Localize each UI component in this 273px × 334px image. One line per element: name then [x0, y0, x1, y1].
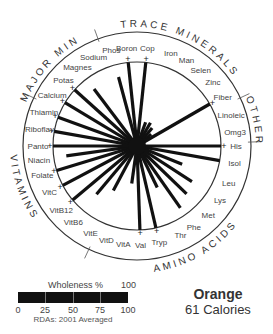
rda-marker: +	[221, 141, 226, 151]
legend-note: RDAs: 2001 Averaged	[18, 315, 128, 324]
legend-tick: 75	[95, 305, 105, 315]
nutrient-label: Phos	[102, 46, 120, 55]
nutrient-label: Folate	[31, 171, 54, 180]
food-name: Orange	[168, 286, 268, 302]
legend-segment	[101, 292, 128, 303]
food-calories: 61 Calories	[168, 302, 268, 318]
nutrient-label: Lys	[214, 196, 226, 205]
nutrient-label: VitA	[116, 240, 131, 249]
chart-bars	[53, 62, 221, 229]
nutrient-label: Thiamin	[30, 108, 58, 117]
nutrient-label: Riboflav	[25, 125, 54, 134]
group-label: TRACE MINERALS	[120, 18, 242, 79]
nutrient-label: Zinc	[205, 78, 220, 87]
legend-max-label: 100	[121, 280, 136, 290]
legend-title: Wholeness %	[48, 280, 103, 290]
legend-segment	[46, 292, 74, 303]
nutrient-label: Magnes	[63, 63, 91, 72]
nutrient-label: VitE	[83, 229, 98, 238]
legend-bar	[18, 292, 128, 303]
rda-marker: +	[143, 54, 148, 64]
legend-ticks: 0 25 50 75 100	[18, 305, 136, 315]
nutrient-label: VitB12	[49, 206, 73, 215]
legend-tick: 25	[40, 305, 50, 315]
nutrient-label: VitD	[99, 236, 114, 245]
nutrient-label: Omg3	[224, 128, 246, 137]
nutrient-label: Panto	[28, 142, 49, 151]
nutrient-label: VitB6	[64, 218, 84, 227]
rda-marker: +	[137, 228, 142, 238]
nutrient-label: Man	[179, 56, 195, 65]
nutrient-label: Val	[135, 241, 146, 250]
nutrient-label: Iron	[164, 49, 178, 58]
rda-marker: +	[125, 54, 130, 64]
nutrient-label: Phe	[187, 223, 202, 232]
legend-tick: 0	[15, 305, 20, 315]
nutrient-label: VitC	[42, 188, 57, 197]
nutrient-label: Fiber	[214, 93, 233, 102]
legend-segment	[74, 292, 102, 303]
legend-segment	[18, 292, 46, 303]
nutrient-label: Cop	[140, 44, 155, 53]
nutrient-label: Isol	[228, 159, 241, 168]
nutrient-label: Tryp	[151, 238, 167, 247]
legend-tick: 50	[68, 305, 78, 315]
chart-hub	[128, 137, 146, 155]
nutrient-label: His	[230, 142, 242, 151]
nutrient-label: Potas	[53, 76, 73, 85]
nutrient-label: Leu	[222, 179, 235, 188]
group-label: OTHER	[244, 94, 265, 146]
nutrient-label: Calcium	[38, 91, 67, 100]
rda-marker: +	[58, 182, 63, 192]
nutrient-label: Met	[202, 211, 216, 220]
nutrient-radial-chart: +Boron+CopIronManSelenZinc+FiberLinoleic…	[0, 0, 273, 280]
nutrient-label: Selen	[190, 66, 210, 75]
rda-marker: +	[154, 226, 159, 236]
nutrient-label: Niacin	[28, 156, 50, 165]
food-info: Orange 61 Calories	[168, 286, 268, 318]
nutrient-label: Thr	[174, 231, 186, 240]
legend-tick: 100	[120, 305, 135, 315]
nutrient-label: Linoleic	[218, 111, 245, 120]
